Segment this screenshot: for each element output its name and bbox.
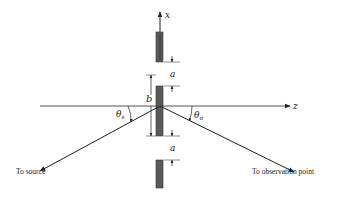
gap-top-label: a — [170, 69, 175, 79]
double-slit-diagram: z x a a b θs θo To source To observation… — [0, 0, 346, 197]
source-caption: To source — [16, 167, 46, 176]
gap-bottom-label: a — [170, 143, 175, 153]
observation-caption: To observation point — [252, 167, 315, 176]
source-angle-label: θs — [116, 109, 125, 120]
source-ray — [40, 106, 160, 171]
barrier-top — [156, 32, 163, 62]
observation-ray — [160, 106, 294, 172]
barrier-middle — [156, 86, 163, 136]
x-axis-label: x — [165, 10, 170, 20]
source-angle-arc — [128, 106, 131, 122]
z-axis-label: z — [292, 101, 298, 111]
barrier-bottom — [156, 160, 163, 188]
spacing-label: b — [146, 93, 152, 104]
observation-angle-label: θo — [194, 110, 203, 121]
observation-angle-arc — [189, 106, 192, 121]
